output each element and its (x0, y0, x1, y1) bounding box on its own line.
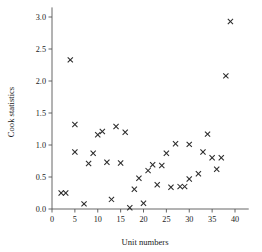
data-point (81, 201, 86, 206)
data-point (72, 149, 77, 154)
data-point (228, 19, 233, 24)
data-point (187, 176, 192, 181)
data-point (59, 190, 64, 195)
data-point (196, 171, 201, 176)
y-axis-title: Cook statistics (6, 86, 16, 137)
y-axis-tick-labels: 0.00.51.01.52.02.53.0 (36, 13, 46, 214)
data-point (86, 161, 91, 166)
data-point (159, 163, 164, 168)
tick-marks (49, 17, 236, 213)
data-point (173, 141, 178, 146)
data-point (187, 142, 192, 147)
data-point (155, 182, 160, 187)
data-point (109, 197, 114, 202)
data-point (223, 73, 228, 78)
y-tick-label: 2.5 (36, 45, 46, 54)
data-point (91, 151, 96, 156)
x-tick-label: 5 (73, 215, 77, 224)
x-tick-label: 40 (231, 215, 239, 224)
y-tick-label: 1.0 (36, 141, 46, 150)
plot-canvas: 0510152025303540 0.00.51.01.52.02.53.0 U… (0, 0, 262, 252)
data-point (210, 155, 215, 160)
data-point (178, 184, 183, 189)
y-tick-label: 2.0 (36, 77, 46, 86)
data-point (72, 122, 77, 127)
data-point (168, 185, 173, 190)
data-point (136, 176, 141, 181)
data-point (118, 160, 123, 165)
data-point (63, 190, 68, 195)
data-point (123, 130, 128, 135)
data-point (95, 132, 100, 137)
data-point (132, 187, 137, 192)
x-axis-tick-labels: 0510152025303540 (50, 215, 239, 224)
data-point (182, 184, 187, 189)
data-point (164, 151, 169, 156)
scatter-plot-figure: 0510152025303540 0.00.51.01.52.02.53.0 U… (0, 0, 262, 252)
data-point (100, 129, 105, 134)
data-point (219, 155, 224, 160)
axes (52, 7, 249, 209)
y-tick-label: 0.0 (36, 205, 46, 214)
x-tick-label: 0 (50, 215, 54, 224)
data-point (200, 149, 205, 154)
x-axis-title: Unit numbers (121, 237, 169, 247)
x-tick-label: 20 (139, 215, 147, 224)
data-point (113, 124, 118, 129)
data-point (214, 167, 219, 172)
x-tick-label: 15 (117, 215, 125, 224)
x-tick-label: 10 (94, 215, 102, 224)
data-point (127, 205, 132, 210)
y-tick-label: 0.5 (36, 173, 46, 182)
data-point (104, 160, 109, 165)
y-tick-label: 1.5 (36, 109, 46, 118)
data-point (145, 168, 150, 173)
data-point (141, 201, 146, 206)
x-tick-label: 30 (185, 215, 193, 224)
data-point (150, 162, 155, 167)
x-tick-label: 25 (162, 215, 170, 224)
data-point (68, 57, 73, 62)
x-tick-label: 35 (208, 215, 216, 224)
y-tick-label: 3.0 (36, 13, 46, 22)
data-point-markers (59, 19, 233, 210)
data-point (205, 132, 210, 137)
